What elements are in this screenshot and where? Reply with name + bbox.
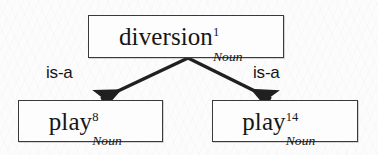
- edge-line-left: [101, 58, 188, 99]
- node-label-diversion: diversion1Noun: [119, 24, 253, 49]
- node-label-play-14: play14Noun: [242, 109, 327, 134]
- edge-label-is-a-right: is-a: [253, 63, 280, 83]
- node-superscript-diversion: 1: [213, 26, 219, 39]
- node-base-diversion: diversion: [119, 23, 213, 50]
- node-diversion-1-noun[interactable]: diversion1Noun: [88, 15, 284, 58]
- node-label-play-8: play8Noun: [49, 109, 132, 134]
- node-subscript-diversion: Noun: [213, 50, 243, 64]
- node-base-play-8: play: [49, 108, 92, 135]
- node-subscript-play-8: Noun: [92, 134, 122, 148]
- figure-canvas: diversion1Noun play8Noun play14Noun is-a…: [0, 0, 378, 155]
- node-superscript-play-8: 8: [92, 111, 98, 124]
- node-base-play-14: play: [242, 108, 285, 135]
- node-play-14-noun[interactable]: play14Noun: [212, 100, 358, 142]
- node-subscript-play-14: Noun: [286, 134, 316, 148]
- node-superscript-play-14: 14: [286, 111, 299, 124]
- node-play-8-noun[interactable]: play8Noun: [18, 100, 163, 142]
- edge-label-is-a-left: is-a: [46, 63, 73, 83]
